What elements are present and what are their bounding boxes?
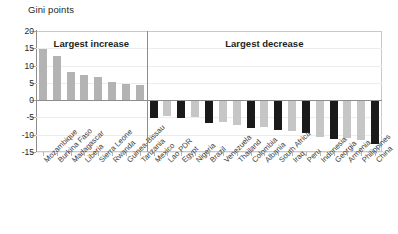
bar [260, 100, 268, 127]
x-tick-mark [84, 152, 85, 156]
x-tick-mark [306, 152, 307, 156]
x-tick-mark [320, 152, 321, 156]
panel-heading: Largest increase [36, 38, 147, 49]
x-tick-mark [71, 152, 72, 156]
y-tick-label: 15 [0, 43, 34, 53]
x-tick-mark [112, 152, 113, 156]
bar [330, 100, 338, 139]
y-tick-label: -10 [0, 130, 34, 140]
bar [177, 100, 185, 118]
panel-heading: Largest decrease [147, 38, 382, 49]
bar [53, 56, 61, 101]
x-tick-mark [167, 152, 168, 156]
x-tick-mark [264, 152, 265, 156]
x-tick-mark [140, 152, 141, 156]
y-tick-label: 20 [0, 26, 34, 36]
y-tick-label: 10 [0, 61, 34, 71]
x-tick-mark [347, 152, 348, 156]
bar [205, 100, 213, 123]
bar [122, 84, 130, 101]
x-tick-mark [43, 152, 44, 156]
x-tick-mark [126, 152, 127, 156]
bar [316, 100, 324, 137]
panel-divider [147, 31, 148, 152]
bar [288, 100, 296, 131]
y-tick-label: 0 [0, 95, 34, 105]
bar [136, 85, 144, 100]
bar [80, 75, 88, 100]
bar [191, 100, 199, 117]
x-tick-mark [361, 152, 362, 156]
x-tick-mark [278, 152, 279, 156]
x-tick-mark [154, 152, 155, 156]
x-tick-mark [292, 152, 293, 156]
bar [343, 100, 351, 138]
bar [219, 100, 227, 121]
bar [371, 100, 379, 144]
x-tick-mark [195, 152, 196, 156]
bar [247, 100, 255, 128]
zero-line [36, 100, 382, 101]
chart-title: Gini points [28, 4, 74, 15]
x-tick-mark [334, 152, 335, 156]
bar [94, 77, 102, 101]
x-tick-mark [237, 152, 238, 156]
bar [108, 82, 116, 100]
bar [357, 100, 365, 140]
bar [150, 100, 158, 118]
y-tick-label: -5 [0, 112, 34, 122]
x-tick-mark [223, 152, 224, 156]
gini-points-chart: Gini points 20151050-5-10-15 Largest inc… [0, 0, 398, 234]
x-tick-mark [181, 152, 182, 156]
gridline [36, 66, 382, 67]
bar [233, 100, 241, 125]
bar [274, 100, 282, 130]
y-tick-label: 5 [0, 78, 34, 88]
bar [67, 72, 75, 100]
bar [39, 49, 47, 100]
bar [163, 100, 171, 116]
y-tick-label: -15 [0, 147, 34, 157]
x-tick-mark [209, 152, 210, 156]
x-tick-mark [375, 152, 376, 156]
x-tick-mark [251, 152, 252, 156]
x-tick-mark [98, 152, 99, 156]
x-tick-mark [57, 152, 58, 156]
